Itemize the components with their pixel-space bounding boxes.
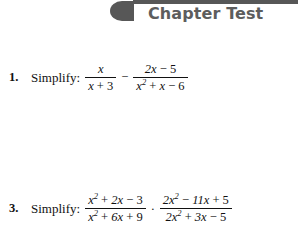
operator-minus: − (168, 79, 175, 93)
exponent: 2 (177, 208, 181, 218)
fraction-second: 2x − 5 x2 + x − 6 (132, 62, 188, 93)
fraction-denominator: x + 3 (85, 78, 116, 93)
operator-minus: − (210, 210, 217, 224)
operator-multiply: · (147, 203, 159, 216)
operator-plus: + (97, 79, 104, 93)
fraction-second: 2x2 − 11x + 5 2x2 + 3x − 5 (159, 193, 233, 224)
fraction-numerator: 2x − 5 (142, 62, 179, 77)
fraction-numerator: 2x2 − 11x + 5 (160, 193, 232, 208)
problem-directive: Simplify: (31, 202, 80, 215)
fraction-numerator: x (95, 62, 107, 77)
variable-x: x (159, 79, 165, 93)
constant: 5 (223, 193, 229, 207)
operator-plus: + (126, 210, 133, 224)
constant: 3 (107, 79, 113, 93)
answer-work-space (0, 102, 298, 190)
fraction-denominator: x2 + 6x + 9 (85, 209, 146, 224)
term-6x: 6x (111, 210, 123, 224)
operator-plus: + (101, 210, 108, 224)
exponent: 2 (94, 191, 98, 201)
fraction-first: x x + 3 (84, 62, 117, 93)
constant: 5 (220, 210, 226, 224)
fraction-first: x2 + 2x − 3 x2 + 6x + 9 (84, 193, 147, 224)
operator-minus: − (126, 193, 133, 207)
constant: 6 (178, 79, 184, 93)
term-2x: 2x (145, 62, 157, 76)
problem-item-3: 3. Simplify: x2 + 2x − 3 x2 + 6x + 9 · 2… (9, 193, 233, 224)
exponent: 2 (94, 208, 98, 218)
problem-directive: Simplify: (31, 71, 80, 84)
math-expression: x x + 3 − 2x − 5 x2 + x − 6 (84, 62, 188, 93)
term-11x: 11x (192, 193, 209, 207)
operator-minus: − (182, 193, 189, 207)
operator-plus: + (212, 193, 219, 207)
page-title: Chapter Test (148, 4, 263, 23)
exponent: 2 (142, 77, 146, 87)
term-2x: 2x (165, 210, 177, 224)
problem-number: 1. (9, 71, 31, 84)
operator-minus: − (160, 62, 167, 76)
fraction-numerator: x2 + 2x − 3 (85, 193, 146, 208)
operator-plus: + (149, 79, 156, 93)
problem-number: 3. (9, 202, 31, 215)
operator-minus: − (117, 71, 132, 84)
math-expression: x2 + 2x − 3 x2 + 6x + 9 · 2x2 − 11x + 5 … (84, 193, 233, 224)
variable-x: x (98, 62, 104, 76)
term-3x: 3x (195, 210, 207, 224)
exponent: 2 (175, 191, 179, 201)
constant: 3 (136, 193, 142, 207)
fraction-denominator: 2x2 + 3x − 5 (162, 209, 229, 224)
term-2x: 2x (111, 193, 123, 207)
term-2x: 2x (163, 193, 175, 207)
constant: 9 (136, 210, 142, 224)
fraction-denominator: x2 + x − 6 (133, 78, 187, 93)
page-header: Chapter Test (0, 0, 298, 30)
variable-x: x (88, 79, 94, 93)
operator-plus: + (185, 210, 192, 224)
problem-item-1: 1. Simplify: x x + 3 − 2x − 5 x2 + x − 6 (9, 62, 189, 93)
operator-plus: + (101, 193, 108, 207)
constant: 5 (170, 62, 176, 76)
rounded-tab-shape-icon (110, 1, 134, 21)
